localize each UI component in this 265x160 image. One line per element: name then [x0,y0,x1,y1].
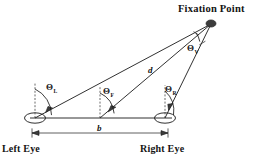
distance-label: d [148,65,153,75]
left-angle-symbol: Θ [46,82,53,92]
left-angle-subscript: L [54,88,58,94]
diagram-canvas: Fixation Point Left Eye Right Eye Θ L Θ … [0,0,265,160]
fixation-angle-symbol: Θ [103,86,110,96]
left-eye-sight-line [35,24,211,118]
baseline-arrowhead-right [161,131,168,136]
left-angle-arc [35,89,52,115]
vergence-angle-subscript: V [195,49,199,55]
right-angle-symbol: Θ [165,84,172,94]
binocular-geometry-diagram: Fixation Point Left Eye Right Eye Θ L Θ … [0,0,265,160]
sight-lines-group [35,24,211,118]
right-ray-arrowhead [168,104,173,111]
center-ray-arrowhead [108,106,116,112]
vergence-angle-symbol: Θ [187,43,194,53]
vergence-angle-label: Θ V [187,43,199,55]
baseline-label: b [97,123,102,133]
fixation-angle-subscript: F [111,92,115,98]
fixation-distance-line [100,24,211,118]
left-eye-label: Left Eye [2,143,40,154]
left-angle-label: Θ L [46,82,58,94]
fixation-point-label: Fixation Point [178,3,245,14]
ray-arrowheads-group [46,104,173,113]
baseline-arrowhead-left [32,131,39,136]
fixation-point-dot [206,20,216,27]
right-angle-label: Θ R [165,84,178,96]
fixation-angle-label: Θ F [103,86,115,98]
right-eye-label: Right Eye [140,143,185,154]
